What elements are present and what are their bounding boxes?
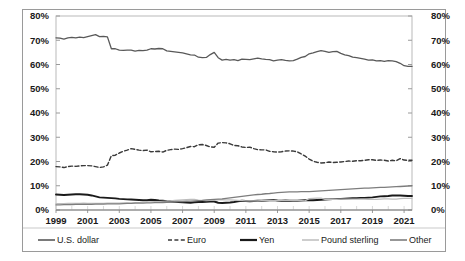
series-line-u-s-dollar xyxy=(56,35,412,67)
x-axis-tick-label: 1999 xyxy=(45,215,66,226)
y-axis-tick-label-right: 70% xyxy=(431,35,451,46)
x-axis-tick-label: 2019 xyxy=(362,215,383,226)
legend-label-u-s-dollar: U.S. dollar xyxy=(57,235,99,245)
y-axis-tick-label-right: 20% xyxy=(431,156,451,167)
y-axis-tick-label-left: 70% xyxy=(30,35,50,46)
y-axis-tick-label-right: 10% xyxy=(431,180,451,191)
legend-label-euro: Euro xyxy=(187,235,206,245)
plot-area xyxy=(56,16,412,210)
line-chart: 0%0%10%10%20%20%30%30%40%40%50%50%60%60%… xyxy=(0,0,465,261)
y-axis-tick-label-left: 60% xyxy=(30,59,50,70)
x-axis-tick-label: 2015 xyxy=(299,215,321,226)
y-axis-tick-label-left: 30% xyxy=(30,132,50,143)
x-axis-tick-label: 2017 xyxy=(330,215,351,226)
y-axis-tick-label-right: 0% xyxy=(431,204,445,215)
x-axis-tick-label: 2007 xyxy=(172,215,193,226)
x-axis-tick-label: 2021 xyxy=(394,215,416,226)
y-axis-tick-label-right: 80% xyxy=(431,10,451,21)
y-axis-tick-label-left: 0% xyxy=(35,204,49,215)
y-axis-tick-label-left: 80% xyxy=(30,10,50,21)
legend-label-yen: Yen xyxy=(259,235,274,245)
y-axis-tick-label-left: 50% xyxy=(30,83,50,94)
x-axis-tick-label: 2001 xyxy=(77,215,99,226)
x-axis-tick-label: 2009 xyxy=(204,215,225,226)
legend-label-pound-sterling: Pound sterling xyxy=(321,235,379,245)
series-line-euro xyxy=(56,143,412,168)
y-axis-tick-label-right: 60% xyxy=(431,59,451,70)
y-axis-tick-label-left: 10% xyxy=(30,180,50,191)
chart-canvas: 0%0%10%10%20%20%30%30%40%40%50%50%60%60%… xyxy=(0,0,465,261)
chart-figure: 0%0%10%10%20%20%30%30%40%40%50%50%60%60%… xyxy=(0,0,465,261)
x-axis-tick-label: 2005 xyxy=(140,215,162,226)
x-axis-tick-label: 2003 xyxy=(109,215,130,226)
x-axis-tick-label: 2011 xyxy=(236,215,257,226)
legend-label-other: Other xyxy=(409,235,432,245)
x-axis-tick-label: 2013 xyxy=(267,215,288,226)
y-axis-tick-label-left: 40% xyxy=(30,107,50,118)
y-axis-tick-label-right: 50% xyxy=(431,83,451,94)
y-axis-tick-label-right: 30% xyxy=(431,132,451,143)
y-axis-tick-label-right: 40% xyxy=(431,107,451,118)
y-axis-tick-label-left: 20% xyxy=(30,156,50,167)
